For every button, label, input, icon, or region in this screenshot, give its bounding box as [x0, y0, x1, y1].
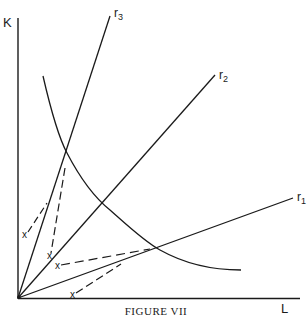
k-axis-label: K: [3, 15, 12, 30]
ray-r3-label: r3: [114, 6, 123, 22]
point-mark-1: x: [22, 229, 27, 240]
dashed-path-2: [51, 168, 65, 253]
ray-r1-label: r1: [297, 190, 306, 206]
l-axis-label: L: [281, 301, 288, 316]
diagram-canvas: K L r3 r2 r1 x x x x FIGURE VII: [0, 0, 308, 322]
point-mark-2: x: [47, 250, 52, 261]
ray-r2: [18, 75, 215, 298]
isoquant-curve: [43, 76, 241, 270]
point-mark-3: x: [55, 260, 60, 271]
figure-caption: FIGURE VII: [125, 305, 188, 317]
ray-r3: [18, 16, 110, 298]
figure-vii: K L r3 r2 r1 x x x x FIGURE VII: [0, 0, 308, 322]
point-mark-4: x: [70, 289, 75, 300]
dashed-path-3: [61, 249, 150, 265]
ray-r2-label: r2: [219, 68, 228, 84]
